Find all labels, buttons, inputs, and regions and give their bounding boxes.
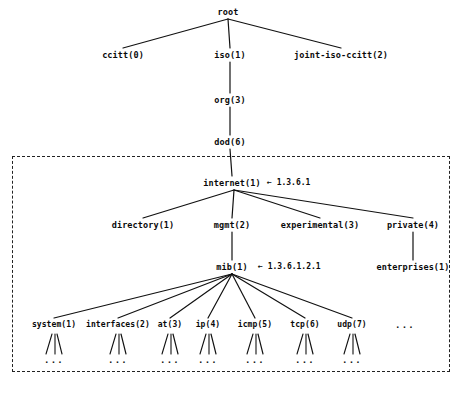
leaf-fan-right-icmp [258, 334, 263, 354]
node-experimental: experimental(3) [281, 221, 359, 230]
leaf-fan-right-at [173, 334, 178, 354]
mib-oid: ← 1.3.6.1.2.1 [258, 263, 321, 271]
edge-mib-system [54, 274, 232, 318]
edge-internet-private [234, 190, 413, 218]
leaf-fan-left-icmp [247, 334, 253, 354]
node-enterprises: enterprises(1) [376, 263, 449, 272]
edge-mib-at [170, 274, 232, 318]
edge-root-ccitt [123, 19, 228, 48]
leaf-fan-left-at [162, 334, 168, 354]
mib-leaf-system: system(1) [32, 321, 76, 329]
mib-leaf-ip: ip(4) [196, 321, 221, 329]
node-mgmt: mgmt(2) [214, 221, 251, 230]
edge-mib-udp [232, 274, 352, 318]
leaf-fan-right-ip [211, 334, 216, 354]
mib-leaf-children-ellipsis: ... [108, 356, 128, 365]
leaf-fan-right-system [57, 334, 62, 354]
mib-leaf-children-ellipsis: ... [198, 356, 218, 365]
mib-leaf-udp: udp(7) [337, 321, 367, 329]
leaf-fan-left-system [46, 334, 52, 354]
leaf-fan-left-udp [344, 334, 350, 354]
oid-tree-diagram: root ccitt(0) iso(1) joint-iso-ccitt(2) … [0, 0, 467, 393]
node-internet: internet(1) [203, 179, 260, 188]
edge-mib-interfaces [118, 274, 232, 318]
mib-more-ellipsis: ... [395, 321, 415, 330]
node-dod: dod(6) [214, 138, 245, 147]
mib-leaf-icmp: icmp(5) [238, 321, 272, 329]
mib-leaf-children-ellipsis: ... [295, 356, 315, 365]
edge-root-joint [228, 19, 341, 48]
leaf-fan-right-tcp [308, 334, 313, 354]
node-iso: iso(1) [214, 51, 245, 60]
leaf-fan-left-ip [200, 334, 206, 354]
leaf-fan-right-interfaces [121, 334, 126, 354]
leaf-fan-left-interfaces [110, 334, 116, 354]
edge-internet-directory [143, 190, 234, 218]
node-joint-iso-ccitt: joint-iso-ccitt(2) [294, 51, 388, 60]
node-ccitt: ccitt(0) [102, 51, 144, 60]
mib-leaf-children-ellipsis: ... [245, 356, 265, 365]
mib-leaf-interfaces: interfaces(2) [86, 321, 150, 329]
edge-dod-internet [230, 149, 232, 176]
leaf-fan-right-udp [355, 334, 360, 354]
mib-leaf-tcp: tcp(6) [290, 321, 320, 329]
mib-leaf-children-ellipsis: ... [160, 356, 180, 365]
node-directory: directory(1) [112, 221, 175, 230]
internet-oid: ← 1.3.6.1 [267, 179, 310, 187]
edge-root-iso [228, 19, 230, 48]
node-org: org(3) [214, 96, 245, 105]
node-root: root [218, 8, 239, 17]
node-mib: mib(1) [216, 263, 247, 272]
edge-mib-ip [208, 274, 232, 318]
mib-leaf-children-ellipsis: ... [342, 356, 362, 365]
node-private: private(4) [387, 221, 439, 230]
edge-internet-experimental [234, 190, 320, 218]
mib-leaf-children-ellipsis: ... [44, 356, 64, 365]
edge-internet-mgmt [232, 190, 234, 218]
leaf-fan-left-tcp [297, 334, 303, 354]
mib-leaf-at: at(3) [158, 321, 183, 329]
